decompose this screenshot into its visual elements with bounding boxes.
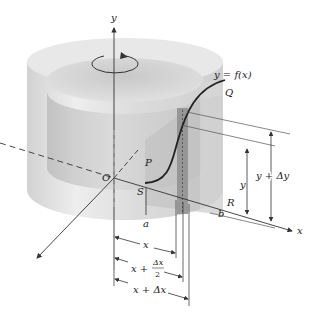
- x-plus-dx-label: x + Δx: [133, 284, 167, 295]
- diagram-canvas: y x O y = f(x) Q P S R a b x x + Δx 2 x …: [0, 0, 317, 320]
- curve-label: y = f(x): [213, 69, 252, 80]
- solid-body: [27, 38, 223, 220]
- x-half-num: Δx: [152, 258, 164, 267]
- x-half-prefix: x +: [131, 263, 148, 274]
- x-half-dimension: [115, 258, 182, 277]
- y-plus-dy-label: y + Δy: [255, 170, 290, 181]
- bound-a-label: a: [143, 218, 149, 229]
- point-p-label: P: [144, 157, 152, 168]
- bound-b-label: b: [218, 208, 224, 219]
- origin-label: O: [102, 172, 110, 183]
- point-q-label: Q: [225, 87, 233, 98]
- y-axis-label: y: [110, 12, 117, 23]
- x-axis-label: x: [297, 225, 303, 236]
- x-dim-label: x: [143, 239, 149, 250]
- point-s-label: S: [137, 186, 144, 197]
- point-r-label: R: [226, 197, 235, 208]
- x-half-den: 2: [155, 270, 160, 279]
- y-dim-label: y: [239, 179, 246, 190]
- solid-of-revolution-diagram: y x O y = f(x) Q P S R a b x x + Δx 2 x …: [0, 0, 317, 320]
